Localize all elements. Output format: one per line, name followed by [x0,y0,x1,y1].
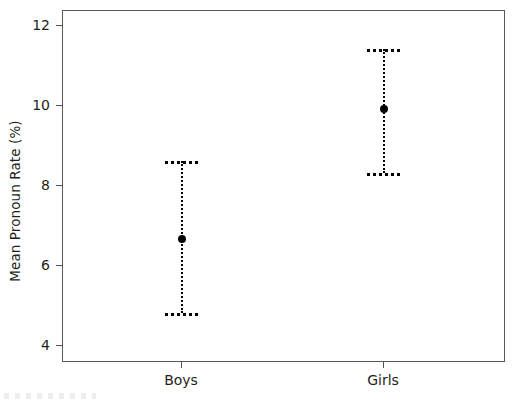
figure-container: Mean Pronoun Rate (%) 12 10 8 6 4 Boys G… [0,0,517,402]
x-tick-label-girls: Girls [343,373,423,387]
scan-artifact [4,393,96,399]
mean-marker-boys [178,235,186,243]
errorbar-cap-upper-boys [165,161,198,164]
errorbar-cap-lower-boys [165,313,198,316]
errorbar-cap-lower-girls [367,173,400,176]
x-tick-label-boys: Boys [141,373,221,387]
y-tick-label-10: 10 [24,98,50,112]
mean-marker-girls [380,105,388,113]
y-tick-label-12: 12 [24,18,50,32]
y-tick-label-6: 6 [24,258,50,272]
plot-area [62,10,505,362]
errorbar-cap-upper-girls [367,49,400,52]
x-tick-mark-boys [181,362,182,368]
y-tick-label-4: 4 [24,338,50,352]
x-tick-mark-girls [383,362,384,368]
y-tick-label-8: 8 [24,178,50,192]
